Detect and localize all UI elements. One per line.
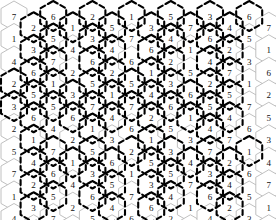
hex-cell-value: 3 [247,57,252,67]
hex-cell-value: 6 [51,12,56,22]
hex-cell-value: 7 [267,180,272,190]
hex-cell-value: 6 [129,57,134,67]
hex-cell-value: 6 [31,68,36,78]
hex-cell-value: 3 [247,214,252,220]
hex-cell-value: 5 [188,68,193,78]
hex-cell-value: 6 [247,169,252,179]
hex-cell-value: 2 [208,79,213,89]
hex-cell-value: 6 [247,12,252,22]
hex-cell-value: 4 [110,113,115,123]
hex-cell-value: 7 [247,102,252,112]
hex-cell-value: 1 [188,113,193,123]
hex-cell-value: 7 [227,68,232,78]
hex-cell-value: 3 [169,147,174,157]
hex-cell-value: 4 [71,45,76,55]
hex-cell-value: 7 [227,135,232,145]
hex-cell-value: 6 [71,113,76,123]
hex-cell-value: 4 [110,45,115,55]
hex-cell-value: 7 [12,12,17,22]
hex-cell-value: 1 [71,23,76,33]
hex-cell-value: 5 [51,192,56,202]
hex-cell-value: 7 [188,180,193,190]
hex-cell-value: 4 [188,158,193,168]
hex-cell-value: 1 [149,68,154,78]
hex-cell-value: 4 [267,158,272,168]
hex-cell-value: 6 [31,113,36,123]
hex-cell-value: 2 [227,158,232,168]
hex-cell-value: 5 [169,169,174,179]
hex-cell-value: 4 [208,57,213,67]
hex-cell-value: 4 [31,158,36,168]
hex-cell-value: 2 [227,45,232,55]
hex-cell-value: 7 [90,102,95,112]
hex-cell-value: 1 [31,135,36,145]
hex-cell-value: 1 [188,203,193,213]
hex-cell-value: 2 [267,90,272,100]
hex-cell-value: 4 [169,34,174,44]
hex-cell-value: 5 [247,34,252,44]
hex-cell-value: 1 [51,79,56,89]
hex-cell-value: 6 [90,192,95,202]
hex-cell-value: 2 [71,203,76,213]
hex-cell-value: 1 [247,79,252,89]
hex-cell-value: 5 [110,180,115,190]
hex-cell-value: 1 [71,158,76,168]
hex-cell-value: 4 [51,124,56,134]
hex-cell-value: 5 [90,147,95,157]
hex-cell-value: 2 [12,124,17,134]
hex-cell-value: 5 [90,79,95,89]
hex-cell-value: 2 [169,57,174,67]
hex-cell-value: 7 [51,214,56,220]
hex-cell-value: 5 [51,102,56,112]
hex-cell-value: 6 [129,124,134,134]
hex-cell-value: 1 [12,192,17,202]
hex-cell-value: 6 [247,124,252,134]
hex-cell-value: 4 [12,57,17,67]
hex-cell-value: 4 [12,214,17,220]
hex-cell-value: 1 [12,34,17,44]
hex-cell-value: 2 [71,135,76,145]
hex-cell-value: 3 [267,135,272,145]
hex-cell-value: 3 [208,169,213,179]
hex-cell-value: 6 [110,158,115,168]
hex-cell-value: 5 [227,90,232,100]
hex-cell-value: 3 [149,180,154,190]
hex-cell-value: 7 [51,57,56,67]
hex-grid-diagram: 7142325714236561423665715476571423621423… [0,0,276,220]
hex-cell-value: 7 [267,23,272,33]
hex-cell-value: 1 [129,169,134,179]
hex-cell-value: 5 [169,124,174,134]
hex-cell-value: 5 [51,34,56,44]
hex-cell-value: 5 [110,23,115,33]
hex-cell-value: 2 [31,23,36,33]
hex-cell-value: 3 [90,169,95,179]
hex-cell-value: 4 [149,90,154,100]
hex-cell-value: 4 [227,23,232,33]
hex-cell-value: 1 [267,203,272,213]
hex-cell-value: 7 [12,169,17,179]
hex-cell-value: 7 [129,102,134,112]
hex-cell-value: 4 [208,214,213,220]
hex-cell-value: 6 [149,203,154,213]
hex-cell-value: 6 [208,192,213,202]
hex-cell-value: 2 [31,180,36,190]
hex-cell-value: 1 [267,45,272,55]
hex-cell-value: 1 [149,135,154,145]
hex-cell-value: 2 [12,79,17,89]
hex-cell-value: 6 [169,102,174,112]
hex-cell-value: 3 [208,12,213,22]
hex-cell-value: 4 [169,192,174,202]
hex-cell-value: 2 [110,68,115,78]
hex-cell-value: 5 [208,102,213,112]
hex-cell-value: 6 [90,57,95,67]
hex-cell-value: 6 [129,214,134,220]
hex-cell-value: 3 [169,79,174,89]
hex-cell-value: 3 [31,203,36,213]
hex-cell-value: 7 [188,23,193,33]
hex-grid-canvas: 7142325714236561423665715476571423621423… [0,0,276,220]
hex-cell-value: 5 [90,214,95,220]
hex-cell-value: 7 [129,192,134,202]
hex-cell-value: 7 [51,147,56,157]
hex-cell-value: 4 [110,203,115,213]
hex-cell-value: 1 [247,147,252,157]
